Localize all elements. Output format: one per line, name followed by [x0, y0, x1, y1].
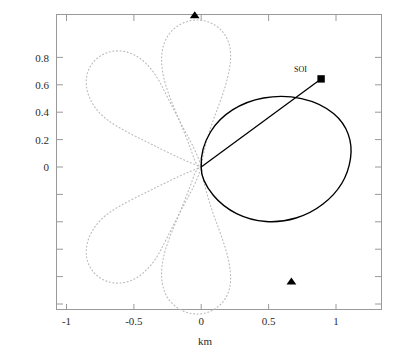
x-axis-title: km [198, 335, 213, 347]
soi-square-marker[interactable] [317, 75, 324, 82]
x-tick-label-0: 0 [198, 315, 204, 327]
polar-beam-pattern-chart: 0.8 0.6 0.4 0.2 0 -1 -0.5 0 0.5 1 km [0, 0, 407, 361]
x-tick-label-1: 1 [333, 315, 339, 327]
y-tick-label-0: 0 [44, 161, 50, 173]
x-tick-label--1: -1 [62, 315, 71, 327]
y-tick-label-0.4: 0.4 [35, 106, 49, 118]
y-tick-label-0.6: 0.6 [35, 79, 49, 91]
antenna-pattern-figure: 0.8 0.6 0.4 0.2 0 -1 -0.5 0 0.5 1 km [0, 0, 407, 361]
soi-label: SOI [294, 65, 307, 74]
x-tick-label-0.5: 0.5 [262, 315, 276, 327]
y-tick-label-0.8: 0.8 [35, 52, 49, 64]
y-tick-label-0.2: 0.2 [35, 134, 49, 146]
x-tick-label--0.5: -0.5 [125, 315, 143, 327]
